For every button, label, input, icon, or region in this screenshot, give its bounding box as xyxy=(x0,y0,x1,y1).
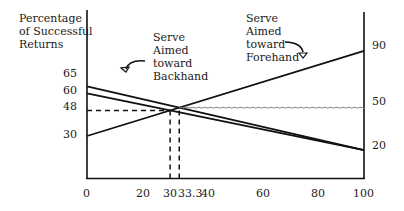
x-tick-30: 30 xyxy=(163,187,177,200)
y-tick-65: 65 xyxy=(63,67,77,80)
y-tick-48: 48 xyxy=(63,100,77,113)
series-line-2 xyxy=(87,93,364,150)
y-tick-30: 30 xyxy=(63,128,77,141)
x-tick-0: 0 xyxy=(83,187,90,200)
y-right-tick-50: 50 xyxy=(372,95,386,108)
series-line-1 xyxy=(87,86,364,150)
x-tick-33-3: 33.3 xyxy=(178,187,203,200)
reference-line-3 xyxy=(179,107,365,108)
y-axis-label-line1: Percentage xyxy=(19,12,82,25)
y-axis-label-line3: Returns xyxy=(19,38,63,51)
y-right-tick-90: 90 xyxy=(372,39,386,52)
backhand-arrowhead-icon xyxy=(121,67,129,72)
x-tick-100: 100 xyxy=(353,187,374,200)
x-tick-20: 20 xyxy=(136,187,150,200)
forehand-annotation: Serve Aimed toward Forehand xyxy=(246,12,299,64)
y-axis-label-line2: of Successful xyxy=(19,25,93,38)
x-tick-40: 40 xyxy=(201,187,215,200)
forehand-arrowhead-icon xyxy=(299,53,307,58)
x-tick-60: 60 xyxy=(256,187,270,200)
backhand-annotation: Serve Aimed toward Backhand xyxy=(153,31,208,83)
y-tick-60: 60 xyxy=(63,84,77,97)
y-right-tick-20: 20 xyxy=(372,139,386,152)
x-tick-80: 80 xyxy=(311,187,325,200)
